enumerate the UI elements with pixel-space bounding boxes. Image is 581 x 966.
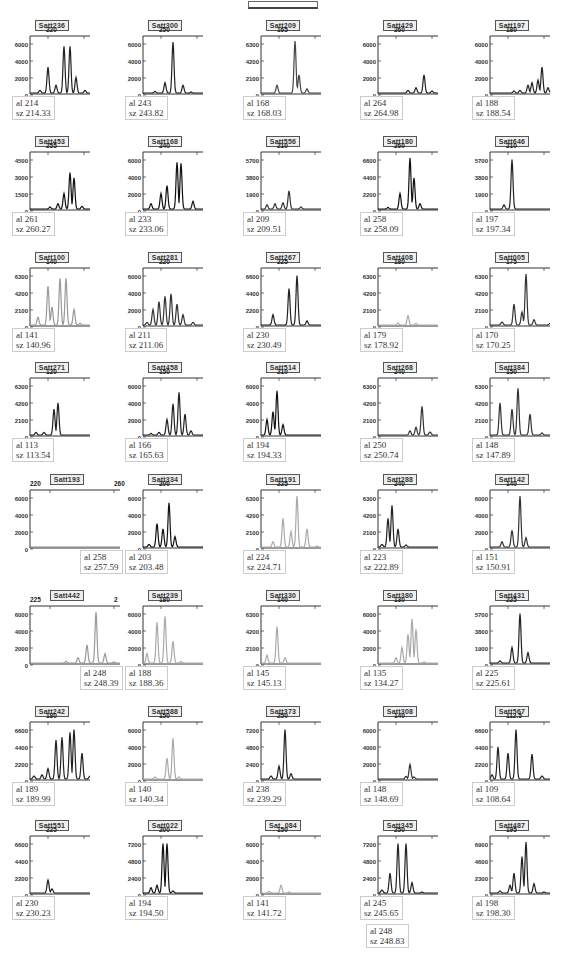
y-axis-tick: 4000 <box>350 629 376 635</box>
electropherogram-panel: Satt1971806000400020000al 188sz 188.54 <box>462 14 578 132</box>
y-axis-tick: 2100 <box>233 76 259 82</box>
allele-value: al 194 <box>129 898 164 908</box>
y-axis-tick: 2000 <box>462 76 488 82</box>
trace-plot <box>490 488 550 550</box>
allele-call-box: al 233sz 233.06 <box>125 212 168 236</box>
trace-plot <box>261 488 321 550</box>
top-axis-tick: 225 <box>277 258 288 265</box>
y-axis-tick: 2200 <box>233 308 259 314</box>
top-axis-tick: 140 <box>277 596 288 603</box>
y-axis-tick: 4200 <box>462 291 488 297</box>
top-axis-tick: 260 <box>394 142 405 149</box>
top-axis-tick: 200 <box>159 826 170 833</box>
allele-value: al 261 <box>16 214 51 224</box>
allele-call-box: al 145sz 145.13 <box>243 666 286 690</box>
electropherogram-panel: Satt4581506000400020000al 166sz 165.63 <box>115 356 231 474</box>
trace-plot <box>378 376 438 438</box>
y-axis-tick: 4000 <box>115 59 141 65</box>
top-axis-tick: 150 <box>159 368 170 375</box>
electropherogram-panel: Satt2362206000400020000al 214sz 214.33 <box>2 14 118 132</box>
y-axis-tick: 6300 <box>233 496 259 502</box>
electropherogram-panel: Satt4292606000400020000al 264sz 264.98 <box>350 14 466 132</box>
allele-call-box: al 197sz 197.34 <box>472 212 515 236</box>
allele-call-box: al 230sz 230.49 <box>243 328 286 352</box>
y-axis-tick: 2000 <box>233 876 259 882</box>
allele-call-box: al 250sz 250.74 <box>360 438 403 462</box>
trace-plot <box>490 376 550 438</box>
top-axis-tick: 140 <box>394 712 405 719</box>
size-value: sz 230.49 <box>247 340 282 350</box>
top-axis-tick: 250 <box>394 826 405 833</box>
y-axis-tick: 2000 <box>350 76 376 82</box>
y-axis-tick: 2400 <box>233 762 259 768</box>
top-axis-tick: 240 <box>159 142 170 149</box>
size-value: sz 233.06 <box>129 224 164 234</box>
y-axis-tick: 4000 <box>2 629 28 635</box>
electropherogram-panel: Satt2672256600440022000al 230sz 230.49 <box>233 246 349 364</box>
allele-value: al 166 <box>129 440 164 450</box>
electropherogram-panel: Satt1802606600440022000al 258sz 258.09 <box>350 130 466 248</box>
y-axis-tick: 4600 <box>462 859 488 865</box>
allele-value: al 141 <box>247 898 282 908</box>
allele-value: al 230 <box>247 330 282 340</box>
allele-value: al 197 <box>476 214 511 224</box>
size-value: sz 150.91 <box>476 562 511 572</box>
top-axis-tick: 180 <box>159 596 170 603</box>
allele-call-box: al 113sz 113.54 <box>12 438 54 462</box>
y-axis-tick: 2000 <box>115 646 141 652</box>
y-axis-tick: 4200 <box>350 513 376 519</box>
top-axis-tick: 220 <box>159 258 170 265</box>
allele-value: al 168 <box>247 98 282 108</box>
electropherogram-panel: Satt3301406300420021000al 145sz 145.13 <box>233 584 349 702</box>
allele-call-box: al 109sz 108.64 <box>472 782 515 806</box>
y-axis-tick: 6300 <box>462 384 488 390</box>
electropherogram-panel: Satt2421806600440022000al 189sz 189.99 <box>2 700 118 818</box>
y-axis-tick: 6000 <box>2 496 28 502</box>
top-axis-tick: 220 <box>46 26 57 33</box>
y-axis-tick: 4000 <box>462 513 488 519</box>
y-axis-tick: 4400 <box>233 291 259 297</box>
size-value: sz 258.09 <box>364 224 399 234</box>
allele-call-box: al 140sz 140.34 <box>125 782 168 806</box>
y-axis-tick: 2000 <box>115 192 141 198</box>
y-axis-tick: 4000 <box>462 59 488 65</box>
y-axis-tick: 2200 <box>462 762 488 768</box>
electropherogram-panel: Satt4312255700380019000al 225sz 225.61 <box>462 584 578 702</box>
allele-call-box: al 264sz 264.98 <box>360 96 403 120</box>
trace-plot <box>378 266 438 328</box>
electropherogram-panel: Satt5142106000400020000al 194sz 194.33 <box>233 356 349 474</box>
y-axis-tick: 4800 <box>350 859 376 865</box>
trace-plot <box>490 834 550 896</box>
trace-plot <box>143 376 203 438</box>
y-axis-tick: 4000 <box>115 745 141 751</box>
top-axis-tick: 240 <box>394 480 405 487</box>
y-axis-tick: 0 <box>2 663 28 669</box>
y-axis-tick: 4000 <box>233 401 259 407</box>
y-axis-tick: 4200 <box>233 513 259 519</box>
size-value: sz 214.33 <box>16 108 51 118</box>
electropherogram-panel: Satt4871956900460023000al 198sz 198.30 <box>462 814 578 932</box>
size-value: sz 222.89 <box>364 562 399 572</box>
y-axis-tick: 4000 <box>115 629 141 635</box>
y-axis-tick: 6000 <box>462 496 488 502</box>
allele-value: al 188 <box>476 98 511 108</box>
y-axis-tick: 3800 <box>462 175 488 181</box>
top-axis-tick: 200 <box>159 480 170 487</box>
y-axis-tick: 6000 <box>115 496 141 502</box>
allele-value: al 224 <box>247 552 282 562</box>
allele-call-box: al 179sz 178.92 <box>360 328 403 352</box>
y-axis-tick: 4000 <box>350 59 376 65</box>
size-value: sz 140.34 <box>129 794 164 804</box>
electropherogram-panel: Satt5512256600440022000al 230sz 230.23 <box>2 814 118 932</box>
y-axis-tick: 5700 <box>233 158 259 164</box>
y-axis-tick: 6000 <box>233 384 259 390</box>
allele-call-box: al 189sz 189.99 <box>12 782 55 806</box>
allele-value: al 113 <box>16 440 50 450</box>
electropherogram-panel: Sat_0841506000400020000al 141sz 141.72 <box>233 814 349 932</box>
y-axis-tick: 4800 <box>115 859 141 865</box>
allele-call-box: al 214sz 214.33 <box>12 96 55 120</box>
size-value: sz 243.82 <box>129 108 164 118</box>
electropherogram-panel: Satt2391806000400020000al 188sz 188.36 <box>115 584 231 702</box>
top-axis-tick: 210 <box>506 142 517 149</box>
size-value: sz 250.74 <box>364 450 399 460</box>
